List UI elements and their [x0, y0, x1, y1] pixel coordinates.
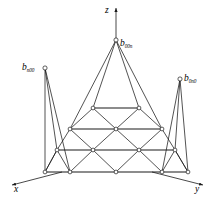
- net-edge-apex: [93, 40, 116, 108]
- net-edge-right: [57, 150, 70, 172]
- control-point-node[interactable]: [173, 148, 177, 152]
- control-point-node[interactable]: [114, 127, 118, 131]
- net-edge-right: [139, 150, 162, 172]
- net-edge-corner-right: [175, 79, 180, 150]
- control-point-node[interactable]: [55, 148, 59, 152]
- net-edge-left: [93, 129, 116, 150]
- net-edge-apex: [70, 40, 116, 129]
- net-edge-left: [70, 108, 93, 129]
- net-edge-left: [116, 150, 139, 172]
- net-edge-right: [93, 150, 116, 172]
- label-b-00n: b00n: [120, 33, 132, 49]
- net-edge-left: [139, 129, 162, 150]
- net-edge-right: [70, 129, 93, 150]
- control-point-node[interactable]: [137, 148, 141, 152]
- control-point-node-b-00n[interactable]: [114, 38, 118, 42]
- control-point-node[interactable]: [68, 170, 72, 174]
- net-edges-group: [45, 40, 188, 172]
- label-z-axis: z: [105, 6, 109, 16]
- axes-group: [12, 8, 203, 185]
- control-point-node[interactable]: [160, 127, 164, 131]
- net-edge-left: [57, 129, 70, 150]
- net-edge-corner-right: [162, 79, 180, 172]
- label-y-axis: y: [195, 185, 199, 195]
- control-point-node[interactable]: [160, 170, 164, 174]
- control-point-node[interactable]: [186, 170, 190, 174]
- net-edge-right: [93, 108, 116, 129]
- net-edge-right: [116, 129, 139, 150]
- net-edge-right: [139, 108, 162, 129]
- label-b-n00: bn00: [22, 57, 34, 73]
- net-edge-apex: [116, 40, 139, 108]
- control-point-node[interactable]: [43, 170, 47, 174]
- control-point-node[interactable]: [68, 127, 72, 131]
- net-edge-base-left: [45, 150, 57, 172]
- control-point-node[interactable]: [114, 170, 118, 174]
- net-edge-left: [70, 150, 93, 172]
- net-edge-apex: [116, 40, 162, 129]
- control-point-node[interactable]: [91, 106, 95, 110]
- control-point-node[interactable]: [91, 148, 95, 152]
- label-b-0n0: b0n0: [184, 68, 196, 84]
- control-point-node-b-n00[interactable]: [43, 66, 47, 70]
- net-nodes-group: [43, 38, 190, 174]
- net-edge-corner-right: [180, 79, 188, 172]
- label-b-00n-sub: 00n: [125, 43, 132, 49]
- control-point-node-b-0n0[interactable]: [178, 77, 182, 81]
- label-x-axis: x: [14, 185, 18, 195]
- control-point-node[interactable]: [137, 106, 141, 110]
- label-b-n00-sub: n00: [27, 67, 34, 73]
- control-net-svg: [0, 0, 214, 206]
- net-edge-left: [116, 108, 139, 129]
- x-axis-line: [12, 172, 62, 185]
- label-b-0n0-sub: 0n0: [189, 78, 196, 84]
- bezier-control-net-figure: bn00 b00n b0n0 x y z: [0, 0, 214, 206]
- net-edge-corner-left: [45, 68, 70, 172]
